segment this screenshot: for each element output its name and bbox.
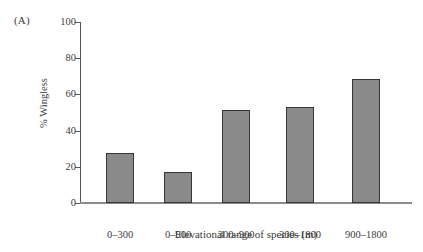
y-tick-label: 60: [66, 87, 77, 100]
bar-0-900: [164, 172, 192, 203]
y-tick-label: 80: [66, 51, 77, 64]
bar-0-300: [106, 153, 134, 203]
bar-chart-plot-area: 0 20 40 60 80 100 0–300 0–900 3: [80, 22, 412, 203]
bar-300-1800: [286, 107, 314, 203]
x-axis-title: Elevational range of species (m): [80, 228, 412, 240]
y-axis-line: [80, 22, 81, 203]
y-axis-title: % Wingless: [38, 13, 52, 194]
y-tick-label: 0: [71, 196, 76, 209]
bar-900-1800: [352, 79, 380, 203]
panel-label: (A): [14, 14, 30, 26]
bar-300-900: [222, 110, 250, 203]
y-tick-label: 20: [66, 160, 77, 173]
figure-panel-a: (A) 0 20 40 60 80 100: [0, 0, 423, 252]
y-tick-label: 40: [66, 124, 77, 137]
y-tick-label: 100: [60, 15, 76, 28]
